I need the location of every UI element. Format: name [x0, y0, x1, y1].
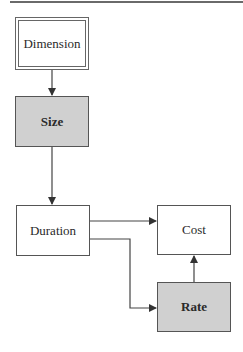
edge-duration-rate — [90, 239, 156, 308]
node-dimension: Dimension — [15, 17, 89, 70]
node-rate: Rate — [157, 282, 231, 332]
node-cost-label: Cost — [182, 222, 206, 238]
node-size-label: Size — [41, 114, 63, 130]
node-dimension-label: Dimension — [23, 36, 80, 52]
node-size: Size — [15, 96, 89, 147]
node-cost: Cost — [157, 205, 231, 255]
node-duration: Duration — [16, 205, 90, 256]
node-duration-label: Duration — [30, 223, 76, 239]
node-rate-label: Rate — [181, 299, 207, 315]
